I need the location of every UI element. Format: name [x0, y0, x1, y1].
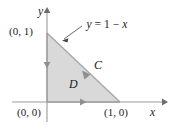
equation-leader-arrowhead [62, 38, 69, 42]
figure-canvas: (0, 1) (0, 0) (1, 0) x y D C y=1−x [0, 0, 176, 133]
equation-equals: = [95, 18, 102, 30]
label-y-intercept: (0, 1) [9, 26, 33, 37]
equation-rhs: x [122, 18, 127, 30]
label-x-intercept: (1, 0) [104, 107, 128, 118]
equation-leader-line [64, 26, 82, 39]
equation-minus: − [113, 18, 120, 30]
label-curve-c: C [94, 59, 102, 71]
equation-lhs: y [87, 18, 92, 30]
label-equation: y=1−x [85, 19, 129, 31]
label-region-d: D [69, 78, 78, 90]
label-origin: (0, 0) [17, 107, 41, 118]
axis-label-x: x [150, 107, 155, 119]
axis-label-y: y [38, 6, 43, 18]
equation-one: 1 [104, 18, 110, 30]
y-axis-arrowhead [44, 7, 51, 13]
x-axis-arrowhead [162, 99, 168, 106]
